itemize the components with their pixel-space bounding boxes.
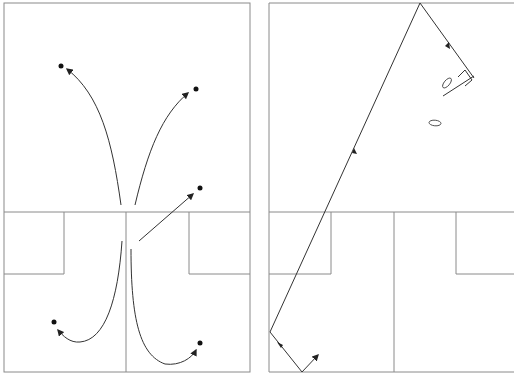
left-court-panel [4, 3, 250, 372]
trajectory-segment-rebound [302, 355, 318, 372]
left-movement-arrows [58, 69, 196, 364]
left-court-box-right [189, 212, 250, 274]
footprints [429, 77, 453, 127]
target-dot [198, 186, 203, 191]
arrow-up-left [67, 69, 121, 205]
left-court-border [4, 3, 250, 372]
right-court-box-left [269, 212, 331, 274]
right-court-box-right [456, 212, 514, 274]
right-trajectory [270, 3, 474, 372]
arrow-up-right [135, 93, 188, 205]
target-dot [52, 320, 57, 325]
target-dot [59, 64, 64, 69]
target-dot [198, 341, 203, 346]
trajectory-segment-main [270, 3, 420, 332]
trajectory-segment-upper-right [420, 3, 474, 78]
target-dot [194, 87, 199, 92]
trajectory-segment-lower [270, 332, 302, 372]
arrow-down-left [58, 241, 122, 342]
right-court-panel [269, 3, 514, 372]
trajectory-arrowheads [277, 42, 450, 348]
right-court-border [269, 3, 514, 372]
left-target-dots [52, 64, 203, 346]
arrow-right-diagonal [139, 194, 193, 241]
footprint-icon [441, 77, 453, 90]
left-court-box-left [4, 212, 64, 274]
arrow-down-right [131, 249, 196, 364]
footprint-icon [429, 120, 441, 127]
diagram-canvas [0, 0, 514, 382]
